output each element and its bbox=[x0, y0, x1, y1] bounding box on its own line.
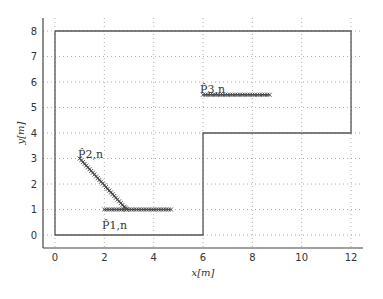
x-tick-label: 10 bbox=[295, 252, 308, 263]
y-tick-label: 4 bbox=[31, 128, 37, 139]
y-tick-label: 5 bbox=[31, 102, 37, 113]
y-axis-label: y[m] bbox=[15, 121, 26, 145]
y-tick-label: 8 bbox=[31, 26, 37, 37]
x-tick-label: 8 bbox=[249, 252, 255, 263]
x-axis-label: x[m] bbox=[192, 267, 215, 278]
trajectory-1 bbox=[102, 208, 173, 212]
y-tick-label: 6 bbox=[31, 77, 37, 88]
x-tick-label: 4 bbox=[150, 252, 156, 263]
annotation-p1: P̂1,n bbox=[102, 219, 127, 232]
x-tick-label: 0 bbox=[52, 252, 58, 263]
annotation-p2: P̂2,n bbox=[78, 148, 103, 161]
x-tick-label: 12 bbox=[345, 252, 358, 263]
y-tick-label: 3 bbox=[31, 153, 37, 164]
annotation-p3: P̂3,n bbox=[200, 83, 225, 96]
x-tick-label: 6 bbox=[200, 252, 206, 263]
x-tick-label: 2 bbox=[101, 252, 107, 263]
y-tick-label: 2 bbox=[31, 179, 37, 190]
trajectory-2 bbox=[78, 157, 129, 212]
y-tick-label: 1 bbox=[31, 204, 37, 215]
tick-labels: 024681012012345678 bbox=[31, 26, 358, 264]
y-tick-label: 0 bbox=[31, 230, 37, 241]
trajectories bbox=[78, 93, 272, 212]
y-tick-label: 7 bbox=[31, 51, 37, 62]
trajectory-chart: 024681012012345678 x[m] y[m] P̂2,n P̂1,n… bbox=[0, 0, 383, 299]
